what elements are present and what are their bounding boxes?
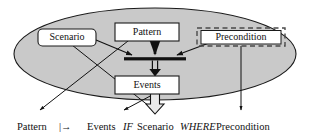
node-precondition-label: Precondition [215,31,266,42]
node-events[interactable]: Events [115,76,179,94]
node-precondition[interactable]: Precondition [197,28,285,46]
node-pattern-label: Pattern [133,26,161,37]
formula-token-if: IF [122,121,133,132]
formula-token-maps-to: |→ [59,121,72,132]
node-events-label: Events [133,79,160,90]
formula-line: Pattern |→ Events IF Scenario WHERE Prec… [17,121,270,132]
formula-token-precondition: Precondition [216,121,270,132]
formula-token-events: Events [87,121,116,132]
diagram-svg: Scenario Pattern Precondition Events Pat… [0,0,310,139]
formula-token-scenario: Scenario [137,121,174,132]
diagram-canvas: Scenario Pattern Precondition Events Pat… [0,0,310,139]
merge-bar [124,57,186,60]
formula-token-pattern: Pattern [17,121,47,132]
node-pattern[interactable]: Pattern [115,23,179,41]
formula-token-where: WHERE [180,121,216,132]
node-scenario-label: Scenario [50,31,85,42]
node-scenario[interactable]: Scenario [38,29,96,46]
